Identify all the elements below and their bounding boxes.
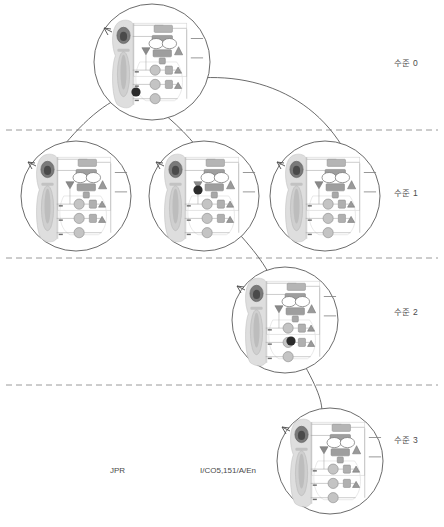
level-label-level-1: 수준 1 bbox=[394, 186, 418, 198]
node-circles bbox=[21, 4, 383, 514]
label-jpr: JPR bbox=[110, 466, 125, 475]
node-n2[interactable] bbox=[232, 267, 338, 373]
node-n3[interactable] bbox=[277, 408, 383, 514]
node-marker-dot-n2[interactable] bbox=[286, 336, 295, 345]
node-n0[interactable] bbox=[94, 4, 210, 120]
diagram-svg bbox=[0, 0, 444, 527]
level-label-level-2: 수준 2 bbox=[394, 305, 418, 317]
node-marker-dot-n0[interactable] bbox=[131, 87, 140, 96]
label-code: I/CO5,151/A/En bbox=[200, 466, 256, 475]
node-n1a[interactable] bbox=[21, 141, 131, 251]
node-n1c[interactable] bbox=[270, 141, 380, 251]
diagram-canvas: 수준 0수준 1수준 2수준 3 JPRI/CO5,151/A/En bbox=[0, 0, 444, 527]
node-marker-dot-n1b[interactable] bbox=[193, 185, 202, 194]
node-n1b[interactable] bbox=[149, 141, 259, 251]
level-label-level-0: 수준 0 bbox=[394, 56, 418, 68]
level-label-level-3: 수준 3 bbox=[394, 433, 418, 445]
